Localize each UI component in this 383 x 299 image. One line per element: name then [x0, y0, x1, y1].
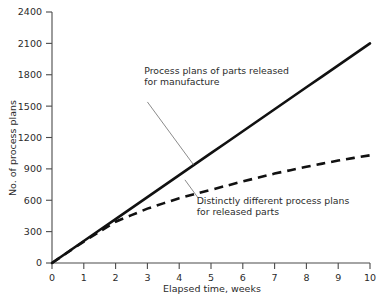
x-tick-label: 9 — [335, 272, 341, 283]
x-tick-label: 8 — [303, 272, 309, 283]
y-tick-label: 2400 — [18, 6, 42, 17]
y-axis-ticks: 030060090012001500180021002400 — [18, 6, 52, 268]
chart-annotations: Process plans of parts releasedfor manuf… — [144, 65, 349, 218]
axes — [52, 12, 370, 263]
annotation-text-line: Distinctly different process plans — [197, 195, 350, 206]
x-tick-label: 7 — [272, 272, 278, 283]
y-tick-label: 1500 — [18, 101, 42, 112]
x-tick-label: 1 — [81, 272, 87, 283]
x-tick-label: 10 — [364, 272, 376, 283]
x-tick-label: 0 — [49, 272, 55, 283]
y-tick-label: 600 — [24, 195, 42, 206]
x-axis-ticks: 012345678910 — [49, 263, 376, 283]
y-tick-label: 1200 — [18, 132, 42, 143]
x-tick-label: 4 — [176, 272, 182, 283]
annotation-dashed: Distinctly different process plansfor re… — [197, 195, 350, 217]
x-axis-title: Elapsed time, weeks — [163, 283, 261, 294]
x-tick-label: 6 — [240, 272, 246, 283]
line-chart: 030060090012001500180021002400 012345678… — [0, 0, 383, 299]
annotation-solid: Process plans of parts releasedfor manuf… — [144, 65, 289, 87]
y-tick-label: 0 — [36, 257, 42, 268]
y-tick-label: 2100 — [18, 38, 42, 49]
annotation-text-line: for manufacture — [144, 76, 220, 87]
chart-container: 030060090012001500180021002400 012345678… — [0, 0, 383, 299]
annotation-leader-line — [147, 102, 193, 165]
annotation-text-line: Process plans of parts released — [144, 65, 289, 76]
x-tick-label: 5 — [208, 272, 214, 283]
y-tick-label: 900 — [24, 163, 42, 174]
x-tick-label: 3 — [144, 272, 150, 283]
annotation-text-line: for released parts — [197, 206, 280, 217]
y-tick-label: 1800 — [18, 69, 42, 80]
y-tick-label: 300 — [24, 226, 42, 237]
y-axis-title: No. of process plans — [7, 100, 18, 196]
x-tick-label: 2 — [113, 272, 119, 283]
